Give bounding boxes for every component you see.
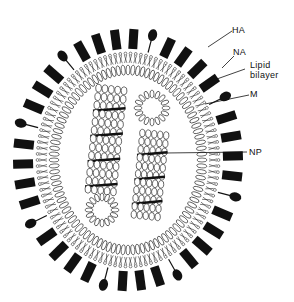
np-subunit: [162, 106, 170, 110]
np-subunit: [104, 119, 111, 127]
lipid-outer: [103, 55, 109, 66]
ha-block: [159, 37, 176, 59]
ha-block: [23, 98, 45, 114]
na-spike: [98, 266, 113, 291]
na-head: [23, 217, 38, 230]
lipid-outer: [207, 181, 218, 186]
ha-block: [134, 270, 146, 291]
np-subunit: [86, 177, 93, 185]
matrix-protein: [130, 65, 135, 75]
lipid-outer: [41, 123, 52, 129]
ha-block: [110, 29, 122, 50]
lipid-outer: [209, 152, 220, 155]
lipid-outer: [124, 52, 127, 63]
ha-block: [80, 261, 97, 283]
np-subunit: [118, 112, 125, 120]
lipid-outer: [39, 186, 50, 191]
na-head: [55, 49, 70, 64]
lipid-outer: [103, 254, 109, 265]
na-spike: [14, 117, 39, 132]
np-subunit: [95, 144, 102, 152]
lipid-outer: [207, 134, 218, 139]
lipid-outer: [45, 202, 56, 209]
ha-block: [49, 241, 70, 261]
np-subunit: [163, 132, 169, 140]
np-subunit: [92, 118, 99, 126]
np-subunit: [150, 90, 154, 98]
ha-block: [13, 159, 33, 169]
np-subunit: [91, 186, 98, 194]
lipid-outer: [108, 255, 113, 266]
lipid-outer: [198, 207, 209, 214]
na-head: [228, 191, 242, 203]
np-subunit: [140, 178, 146, 186]
np-subunit: [102, 144, 109, 152]
lipid-outer: [209, 159, 220, 162]
matrix-layer: [49, 65, 207, 255]
np-subunit: [100, 219, 104, 227]
matrix-protein: [53, 186, 64, 193]
matrix-protein: [193, 186, 204, 193]
ha-spike: [43, 64, 64, 84]
np-subunit: [108, 85, 115, 93]
lipid-outer: [133, 256, 137, 267]
np-subunit: [107, 94, 114, 102]
matrix-protein: [121, 65, 126, 75]
lipid-outer: [151, 57, 158, 68]
lipid-outer: [50, 212, 61, 220]
matrix-protein: [116, 66, 121, 76]
lipid-leader-line: [200, 69, 245, 85]
ha-block: [13, 139, 34, 150]
ha-spike: [13, 159, 33, 169]
lipid-outer: [43, 117, 54, 123]
lipid-outer: [202, 117, 213, 123]
ha-spike: [211, 205, 233, 221]
lipid-outer: [37, 175, 48, 179]
np-subunit: [145, 187, 151, 195]
ha-block: [36, 227, 58, 246]
ha-block: [73, 40, 91, 62]
matrix-protein: [195, 140, 206, 146]
np-subunit: [135, 170, 141, 178]
np-subunit: [161, 156, 167, 164]
np-subunit: [143, 212, 149, 220]
ha-spike: [80, 261, 97, 283]
lipid-outer: [53, 216, 64, 224]
lipid-outer: [113, 53, 118, 64]
ha-spike: [91, 33, 106, 55]
ha-spike: [23, 98, 45, 114]
np-subunit: [149, 155, 155, 163]
ha-block: [215, 110, 237, 125]
lipid-outer: [195, 101, 206, 109]
ha-block: [211, 205, 233, 221]
matrix-protein: [51, 134, 62, 140]
np-subunit: [96, 135, 103, 143]
ha-spike: [222, 170, 243, 181]
na-stalk: [218, 192, 231, 195]
np-subunit: [108, 145, 115, 153]
lipid-outer: [129, 257, 132, 268]
np-subunit: [110, 188, 117, 196]
label-lipid-line1: Lipid: [250, 60, 271, 70]
lipid-outer: [200, 202, 211, 209]
np-subunit: [139, 129, 145, 137]
np-subunit: [121, 87, 128, 95]
na-head: [171, 267, 185, 282]
matrix-protein: [116, 244, 121, 254]
matrix-protein: [51, 180, 62, 186]
np-subunit: [85, 208, 93, 212]
np-coil-left: [84, 84, 127, 196]
np-subunit: [113, 94, 120, 102]
ha-spike: [187, 59, 208, 79]
np-subunit: [95, 84, 102, 92]
na-stalk: [105, 268, 108, 281]
ha-leader-line: [208, 31, 232, 47]
np-subunit: [143, 203, 149, 211]
lipid-outer: [36, 159, 47, 162]
matrix-protein: [49, 158, 59, 162]
lipid-outer: [113, 256, 118, 267]
lipid-outer: [98, 252, 105, 263]
lipid-outer: [47, 106, 58, 113]
na-leader-line: [222, 56, 234, 68]
np-subunit: [137, 211, 143, 219]
